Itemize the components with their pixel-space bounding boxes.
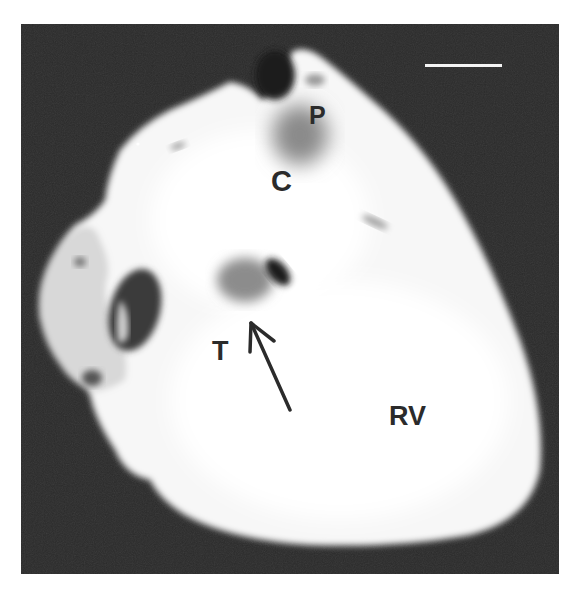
label-t: T: [212, 338, 229, 365]
arrow-icon: [21, 24, 559, 574]
specimen-photo: [21, 24, 559, 574]
label-rv: RV: [389, 403, 426, 430]
label-c: C: [271, 167, 292, 196]
scale-bar: [425, 64, 502, 67]
label-p: P: [309, 103, 326, 128]
